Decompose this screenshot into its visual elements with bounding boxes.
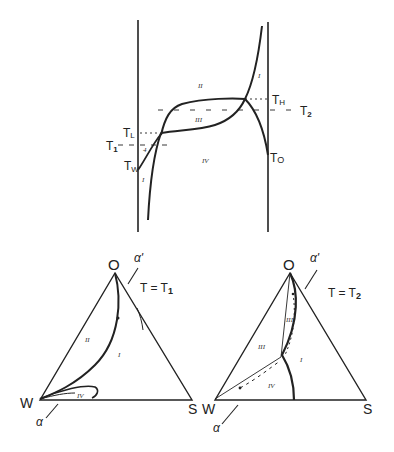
label-t-1: T1 — [106, 139, 118, 154]
vertex-w: W — [202, 401, 216, 417]
label-t-h: TH — [272, 93, 285, 107]
curve-left-down — [148, 133, 161, 220]
binodal-curve — [282, 273, 296, 400]
label-t-w: TW — [124, 159, 139, 174]
temperature-composition-diagram: TH T2 TL T1 TW TO I II III IV I 4 — [106, 20, 312, 232]
ternary-diagram-t1: O W S α' α T = T1 II I IV — [20, 251, 197, 429]
region-label-small: 4 — [143, 146, 147, 154]
region-label-i: I — [117, 351, 121, 359]
region-label-iv: IV — [201, 157, 209, 165]
vertex-w: W — [20, 395, 34, 411]
point-marker — [292, 293, 295, 296]
alpha-marker — [222, 405, 238, 424]
alpha-label: α — [213, 421, 221, 435]
region-label-i-right: I — [257, 72, 261, 80]
vertex-o: O — [108, 256, 120, 273]
point-marker — [117, 317, 120, 320]
curve-tw-junction — [138, 134, 161, 170]
condition-t-t2: T = T2 — [328, 286, 361, 301]
region-label-iv: IV — [76, 392, 84, 400]
vertex-s: S — [188, 401, 197, 417]
region-label-iv: IV — [267, 382, 275, 390]
tie-line-lower — [215, 357, 281, 399]
vertex-s: S — [363, 401, 372, 417]
region-label-i: I — [299, 356, 303, 364]
region-label-ii: II — [197, 82, 203, 90]
vertex-o: O — [283, 256, 295, 273]
curve-lower-boundary — [161, 99, 245, 133]
label-t-o: TO — [270, 151, 284, 165]
alpha-label: α — [36, 415, 44, 429]
condition-t-t1: T = T1 — [140, 281, 173, 296]
region-label-iii-upper: III — [285, 316, 294, 324]
label-t-2: T2 — [300, 104, 312, 119]
region-label-iii: III — [257, 343, 266, 351]
region-label-iii: III — [194, 116, 203, 124]
phase-diagram-figure: TH T2 TL T1 TW TO I II III IV I 4 O W S … — [0, 0, 394, 452]
alpha-prime-marker — [305, 270, 317, 289]
label-t-l: TL — [123, 126, 135, 140]
curve-right-up — [245, 26, 262, 99]
region-label-i-left: I — [141, 176, 145, 184]
alpha-prime-marker — [128, 268, 138, 284]
region-label-ii: II — [84, 336, 90, 344]
alpha-prime-label: α' — [310, 251, 320, 265]
alpha-marker — [46, 404, 58, 418]
alpha-prime-label: α' — [134, 251, 144, 265]
ternary-diagram-t2: O W S α' α T = T2 III III I IV — [202, 251, 372, 435]
curve-right-down — [245, 99, 268, 155]
point-marker — [239, 387, 242, 390]
